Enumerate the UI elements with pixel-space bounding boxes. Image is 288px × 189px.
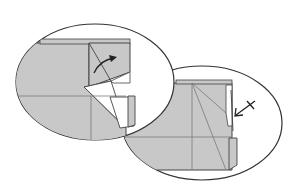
diagram-stage: Origami folding steps: [0, 0, 288, 189]
origami-diagram: [0, 0, 288, 189]
